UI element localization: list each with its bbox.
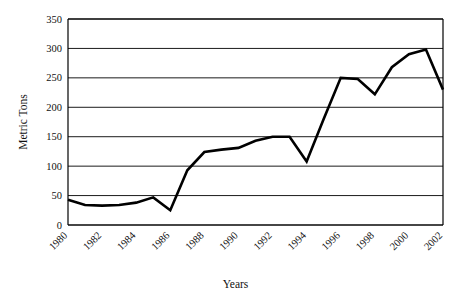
x-tick-label: 2000: [388, 230, 411, 253]
y-tick-label: 300: [46, 43, 62, 54]
y-tick-label: 100: [46, 161, 62, 172]
y-axis-title: Metric Tons: [17, 94, 29, 150]
y-tick-label: 0: [57, 220, 62, 231]
chart-canvas: 050100150200250300350 198019821984198619…: [0, 0, 464, 302]
y-tick-label: 50: [52, 190, 63, 201]
line-chart: 050100150200250300350 198019821984198619…: [0, 0, 464, 302]
x-tick-label: 1984: [115, 229, 138, 252]
y-tick-labels: 050100150200250300350: [46, 14, 62, 231]
x-tick-label: 1986: [149, 230, 172, 253]
x-tick-label: 1980: [47, 230, 70, 253]
x-tick-label: 1982: [81, 230, 104, 253]
series-metric-tons: [68, 50, 443, 211]
x-axis-title: Years: [223, 278, 249, 290]
y-tick-label: 200: [46, 102, 62, 113]
y-tick-label: 250: [46, 72, 62, 83]
gridlines: [68, 19, 443, 225]
x-tick-label: 1988: [183, 230, 206, 253]
x-tick-label: 1994: [285, 229, 308, 252]
x-tick-label: 1992: [251, 230, 274, 253]
data-series-line: [68, 50, 443, 211]
x-tick-label: 1990: [217, 230, 240, 253]
y-tick-label: 150: [46, 131, 62, 142]
y-tick-label: 350: [46, 14, 62, 25]
x-tick-label: 1998: [354, 230, 377, 253]
x-tick-labels: 1980198219841986198819901992199419961998…: [47, 229, 445, 252]
x-tick-label: 1996: [320, 230, 343, 253]
x-tick-label: 2002: [422, 230, 445, 253]
plot-frame: [68, 19, 443, 225]
